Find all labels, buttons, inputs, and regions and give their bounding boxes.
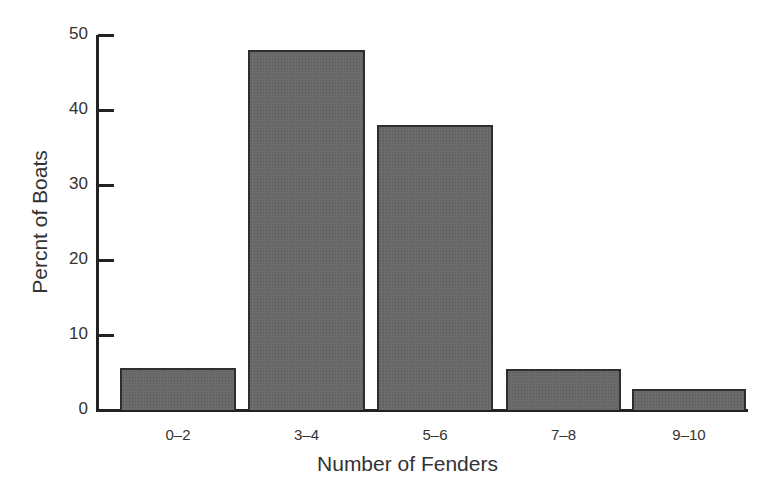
y-tick-label: 40 — [48, 99, 88, 119]
bar-5-6 — [377, 125, 493, 410]
y-tick-label: 10 — [48, 324, 88, 344]
y-tick-label: 50 — [48, 24, 88, 44]
bar-0-2 — [120, 368, 236, 410]
y-tick-label: 0 — [48, 399, 88, 419]
bar-3-4 — [248, 50, 365, 410]
y-axis-label: Percnt of Boats — [28, 150, 52, 294]
y-tick-mark — [98, 334, 114, 337]
x-tick-label: 7–8 — [514, 426, 614, 443]
bar-chart: 01020304050 0–23–45–67–89–10 Number of F… — [0, 0, 775, 498]
x-axis-label: Number of Fenders — [0, 452, 775, 476]
bar-9-10 — [632, 389, 746, 410]
y-tick-mark — [98, 34, 114, 37]
y-tick-mark — [98, 184, 114, 187]
y-tick-mark — [98, 109, 114, 112]
y-axis-line — [96, 35, 99, 412]
bar-7-8 — [506, 369, 621, 410]
x-tick-label: 0–2 — [128, 426, 228, 443]
x-tick-label: 5–6 — [385, 426, 485, 443]
y-tick-mark — [98, 259, 114, 262]
x-tick-label: 9–10 — [639, 426, 739, 443]
y-tick-mark — [98, 409, 114, 412]
y-tick-label: 20 — [48, 249, 88, 269]
x-tick-label: 3–4 — [257, 426, 357, 443]
y-tick-label: 30 — [48, 174, 88, 194]
